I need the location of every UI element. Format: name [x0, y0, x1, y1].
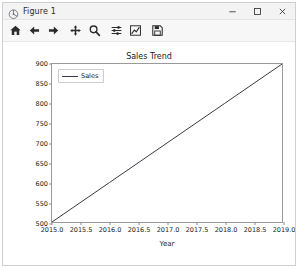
x-tick-label: 2018.5: [244, 222, 267, 234]
back-arrow-icon[interactable]: [25, 21, 44, 40]
close-button[interactable]: [270, 3, 295, 19]
save-floppy-icon[interactable]: [148, 21, 167, 40]
y-tick-label: 900: [36, 60, 52, 68]
navigation-toolbar: [3, 20, 295, 42]
zoom-magnifier-icon[interactable]: [85, 21, 104, 40]
edit-axis-curve-icon[interactable]: [126, 21, 145, 40]
y-tick-label: 650: [36, 160, 52, 168]
y-tick-label: 850: [36, 80, 52, 88]
window-titlebar[interactable]: Figure 1: [3, 3, 295, 20]
legend-line-swatch: [62, 76, 78, 77]
matplotlib-figure-icon: [7, 5, 20, 18]
forward-arrow-icon[interactable]: [44, 21, 63, 40]
x-tick-label: 2015.5: [70, 222, 93, 234]
y-tick-label: 800: [36, 100, 52, 108]
y-tick-label: 600: [36, 180, 52, 188]
window-controls: [220, 3, 295, 19]
minimize-button[interactable]: [220, 3, 245, 19]
x-tick-label: 2015.0: [41, 222, 64, 234]
chart-legend[interactable]: Sales: [58, 69, 104, 83]
pan-move-icon[interactable]: [66, 21, 85, 40]
configure-subplots-icon[interactable]: [107, 21, 126, 40]
legend-label-sales: Sales: [81, 72, 98, 80]
window-title: Figure 1: [23, 7, 220, 16]
x-axis-label: Year: [51, 240, 283, 248]
y-tick-label: 750: [36, 120, 52, 128]
plot-axes[interactable]: 500550600650700750800850900 2015.02015.5…: [51, 63, 283, 223]
x-tick-label: 2016.0: [99, 222, 122, 234]
x-tick-label: 2018.0: [215, 222, 238, 234]
figure-window: Figure 1: [2, 2, 296, 266]
x-tick-label: 2017.5: [186, 222, 209, 234]
y-tick-label: 550: [36, 200, 52, 208]
x-tick-label: 2017.0: [157, 222, 180, 234]
y-tick-label: 700: [36, 140, 52, 148]
home-icon[interactable]: [6, 21, 25, 40]
x-tick-label: 2019.0: [273, 222, 295, 234]
maximize-button[interactable]: [245, 3, 270, 19]
x-tick-label: 2016.5: [128, 222, 151, 234]
series-line-sales: [52, 64, 282, 222]
figure-canvas[interactable]: Sales Trend 500550600650700750800850900 …: [3, 42, 295, 265]
